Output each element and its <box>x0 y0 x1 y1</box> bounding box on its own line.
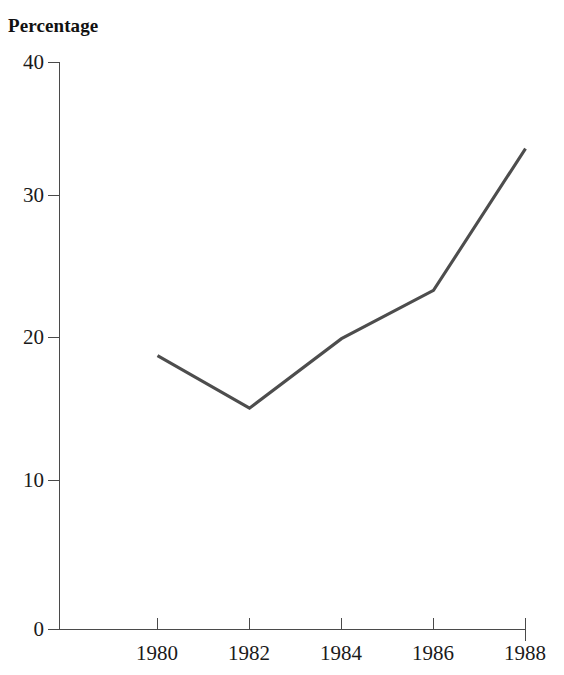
x-axis-label-1988: 1988 <box>480 643 564 664</box>
line-chart: Percentage 40 30 20 10 0 1980 1982 1984 … <box>0 0 564 675</box>
y-axis-label-20: 20 <box>0 327 44 348</box>
y-axis-label-30: 30 <box>0 185 44 206</box>
data-series-line <box>158 149 526 409</box>
x-axis-label-1986: 1986 <box>388 643 478 664</box>
x-axis-label-1984: 1984 <box>296 643 386 664</box>
y-axis-label-10: 10 <box>0 470 44 491</box>
chart-plot-area <box>0 0 564 675</box>
x-axis-label-1980: 1980 <box>112 643 202 664</box>
y-axis-label-0: 0 <box>0 619 44 640</box>
y-axis-label-40: 40 <box>0 52 44 73</box>
x-axis-label-1982: 1982 <box>204 643 294 664</box>
